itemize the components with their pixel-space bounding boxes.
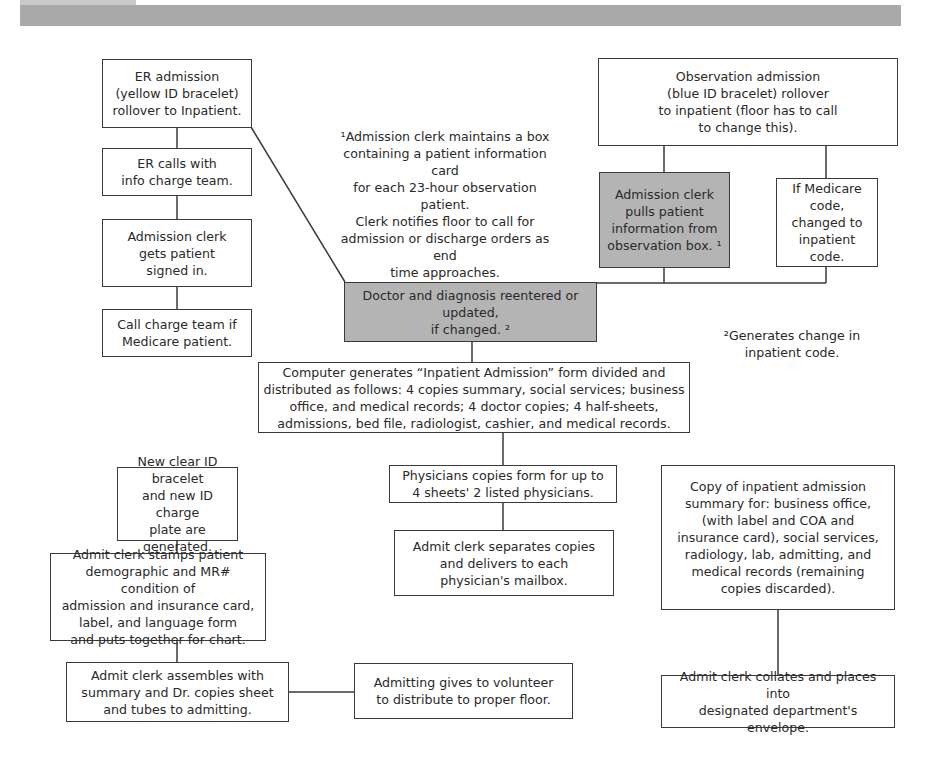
clerk-separates-text: Admit clerk separates copies and deliver…: [413, 538, 595, 589]
copy-summary-box: Copy of inpatient admission summary for:…: [661, 465, 895, 610]
er-admission-box: ER admission (yellow ID bracelet) rollov…: [102, 59, 252, 128]
computer-generates-text: Computer generates “Inpatient Admission”…: [263, 364, 684, 432]
er-calls-box: ER calls with info charge team.: [102, 148, 252, 196]
clerk-pulls-info-box: Admission clerk pulls patient informatio…: [599, 172, 730, 268]
observation-admission-text: Observation admission (blue ID bracelet)…: [659, 68, 838, 136]
clerk-signs-in-text: Admission clerk gets patient signed in.: [127, 228, 226, 279]
observation-admission-box: Observation admission (blue ID bracelet)…: [598, 58, 898, 146]
clerk-assembles-box: Admit clerk assembles with summary and D…: [66, 662, 289, 722]
er-calls-text: ER calls with info charge team.: [121, 155, 233, 189]
admitting-volunteer-text: Admitting gives to volunteer to distribu…: [374, 674, 554, 708]
doctor-diagnosis-box: Doctor and diagnosis reentered or update…: [344, 282, 597, 342]
er-admission-text: ER admission (yellow ID bracelet) rollov…: [113, 68, 242, 119]
admitting-volunteer-box: Admitting gives to volunteer to distribu…: [354, 663, 573, 719]
call-charge-team-text: Call charge team if Medicare patient.: [117, 316, 236, 350]
computer-generates-box: Computer generates “Inpatient Admission”…: [258, 362, 690, 433]
new-bracelet-box: New clear ID bracelet and new ID charge …: [117, 467, 238, 541]
physician-copies-box: Physicians copies form for up to 4 sheet…: [389, 465, 617, 503]
physician-copies-text: Physicians copies form for up to 4 sheet…: [402, 467, 604, 501]
clerk-stamps-text: Admit clerk stamps patient demographic a…: [55, 546, 261, 648]
medicare-code-text: If Medicare code, changed to inpatient c…: [781, 180, 873, 265]
footnote-1: ¹Admission clerk maintains a box contain…: [330, 128, 560, 281]
new-bracelet-text: New clear ID bracelet and new ID charge …: [122, 453, 233, 555]
clerk-collates-text: Admit clerk collates and places into des…: [666, 668, 890, 736]
clerk-stamps-box: Admit clerk stamps patient demographic a…: [50, 553, 266, 641]
medicare-code-box: If Medicare code, changed to inpatient c…: [776, 178, 878, 267]
clerk-assembles-text: Admit clerk assembles with summary and D…: [81, 667, 273, 718]
call-charge-team-box: Call charge team if Medicare patient.: [102, 309, 252, 357]
copy-summary-text: Copy of inpatient admission summary for:…: [677, 478, 879, 597]
clerk-collates-box: Admit clerk collates and places into des…: [661, 675, 895, 728]
clerk-pulls-info-text: Admission clerk pulls patient informatio…: [607, 186, 721, 254]
clerk-separates-box: Admit clerk separates copies and deliver…: [394, 530, 614, 596]
footnote-2: ²Generates change in inpatient code.: [722, 327, 862, 361]
doctor-diagnosis-text: Doctor and diagnosis reentered or update…: [349, 287, 592, 338]
clerk-signs-in-box: Admission clerk gets patient signed in.: [102, 219, 252, 287]
